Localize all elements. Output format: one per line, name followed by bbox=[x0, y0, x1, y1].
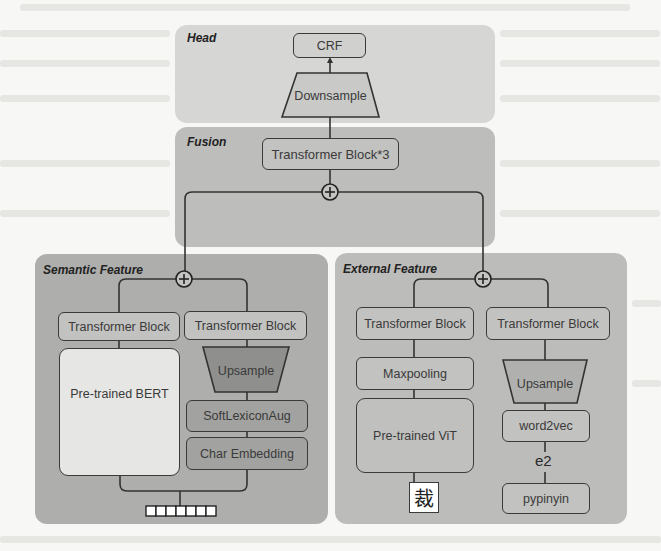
word2vec-node: word2vec bbox=[502, 410, 590, 442]
pretrained-vit-node: Pre-trained ViT bbox=[356, 398, 474, 473]
semantic-transformer-left-node: Transformer Block bbox=[58, 312, 180, 341]
pretrained-bert-node: Pre-trained BERT bbox=[59, 348, 180, 476]
fusion-transformer-node: Transformer Block*3 bbox=[262, 138, 399, 170]
e2-edge-label: e2 bbox=[535, 452, 552, 469]
external-transformer-right-node: Transformer Block bbox=[486, 307, 610, 340]
semantic-transformer-right-node: Transformer Block bbox=[184, 311, 307, 340]
external-upsample-node: Upsample bbox=[503, 374, 587, 394]
pypinyin-node: pypinyin bbox=[502, 483, 590, 514]
external-transformer-left-node: Transformer Block bbox=[356, 307, 474, 340]
maxpooling-node: Maxpooling bbox=[356, 357, 474, 390]
char-embedding-node: Char Embedding bbox=[186, 437, 308, 470]
semantic-upsample-node: Upsample bbox=[203, 361, 289, 381]
softlexiconaug-node: SoftLexiconAug bbox=[186, 400, 308, 432]
token-sequence bbox=[146, 506, 216, 516]
downsample-node: Downsample bbox=[282, 86, 379, 106]
crf-node: CRF bbox=[293, 33, 366, 58]
glyph-image: 裁 bbox=[409, 482, 439, 513]
